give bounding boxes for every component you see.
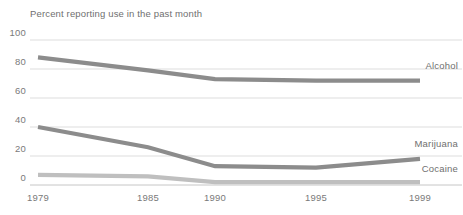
series-lines-group [38, 57, 420, 182]
x-tick-label: 1979 [27, 192, 49, 203]
x-tick-label: 1995 [305, 192, 327, 203]
x-tick-label: 1999 [409, 192, 431, 203]
chart-container: Percent reporting use in the past month … [0, 0, 463, 215]
series-label-cocaine: Cocaine [422, 163, 458, 174]
x-tick-label: 1990 [204, 192, 226, 203]
series-label-alcohol: Alcohol [425, 60, 458, 71]
x-tick-label: 1985 [137, 192, 159, 203]
y-tick-label: 20 [15, 143, 26, 154]
y-tick-label: 80 [15, 56, 26, 67]
y-tick-label: 40 [15, 114, 26, 125]
series-label-marijuana: Marijuana [414, 138, 458, 149]
y-axis-tick-labels: 020406080100 [10, 27, 26, 183]
y-tick-label: 0 [21, 172, 26, 183]
series-line-cocaine [38, 175, 420, 182]
line-chart-plot: 020406080100 AlcoholMarijuanaCocaine 197… [0, 0, 463, 215]
y-tick-label: 100 [10, 27, 26, 38]
y-tick-label: 60 [15, 85, 26, 96]
series-line-marijuana [38, 127, 420, 168]
x-axis-tick-labels: 19791985199019951999 [27, 192, 431, 203]
series-inline-labels-group: AlcoholMarijuanaCocaine [414, 60, 458, 174]
